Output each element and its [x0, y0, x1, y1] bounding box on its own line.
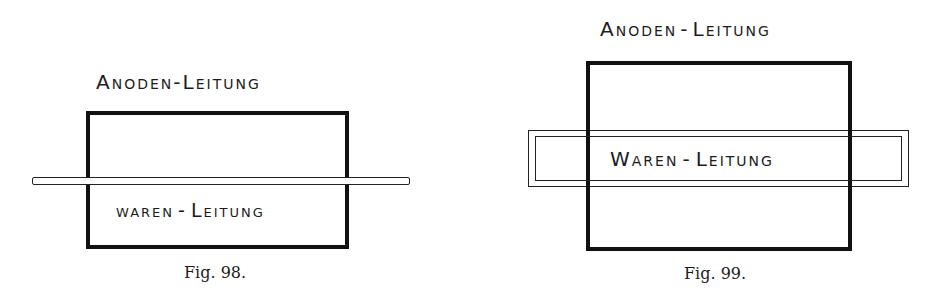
goods-conductor-label: waren-Leitung: [116, 199, 265, 221]
anode-conductor-label: Anoden-Leitung: [96, 70, 261, 94]
figure-99: Anoden-Leitung Waren-Leitung Fig. 99.: [470, 0, 940, 304]
figure-caption: Fig. 99.: [684, 264, 746, 283]
anode-conductor-label: Anoden-Leitung: [600, 17, 771, 41]
goods-conductor-bar: [32, 177, 410, 185]
goods-conductor-label: Waren-Leitung: [610, 147, 774, 171]
figure-98: Anoden-Leitung waren-Leitung Fig. 98.: [0, 0, 470, 304]
figure-caption: Fig. 98.: [184, 263, 246, 282]
